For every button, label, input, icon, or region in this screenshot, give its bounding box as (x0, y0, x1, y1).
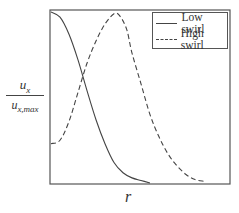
fraction-bar (6, 95, 44, 96)
y-label-denominator: ux,max (2, 98, 48, 114)
dashed-line-swatch (156, 39, 177, 40)
solid-line-swatch (156, 23, 177, 24)
legend-item-high-swirl: High swirl (156, 32, 227, 46)
low-swirl-line (51, 12, 150, 183)
legend-label: High swirl (181, 27, 227, 51)
y-axis-label: ux ux,max (2, 77, 48, 114)
x-axis-label: r (125, 188, 131, 206)
legend: Low swirl High swirl (152, 12, 228, 49)
y-label-numerator: ux (2, 77, 48, 93)
